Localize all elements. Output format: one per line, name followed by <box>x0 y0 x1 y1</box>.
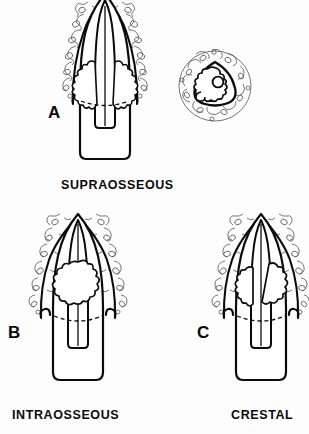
panel-letter-c: C <box>197 324 209 341</box>
panel-letter-a: A <box>48 104 60 121</box>
caption-supraosseous: SUPRAOSSEOUS <box>61 179 174 192</box>
pulp-canal-inset <box>213 77 224 88</box>
caption-intraosseous: INTRAOSSEOUS <box>12 409 119 422</box>
dental-lesion-figure <box>0 0 309 434</box>
caption-crestal: CRESTAL <box>231 409 293 422</box>
panel-letter-b: B <box>8 324 20 341</box>
